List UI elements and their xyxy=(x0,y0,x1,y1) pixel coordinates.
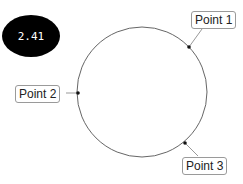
value-badge: 2.41 xyxy=(2,15,60,57)
point-1-label[interactable]: Point 1 xyxy=(191,11,236,29)
leader-line-point-3 xyxy=(185,143,198,156)
point-3-marker[interactable] xyxy=(183,141,187,145)
leader-line-point-1 xyxy=(189,29,202,47)
point-3-label[interactable]: Point 3 xyxy=(182,157,227,175)
point-2-marker[interactable] xyxy=(76,91,80,95)
point-2-label[interactable]: Point 2 xyxy=(15,85,60,103)
point-1-marker[interactable] xyxy=(187,45,191,49)
